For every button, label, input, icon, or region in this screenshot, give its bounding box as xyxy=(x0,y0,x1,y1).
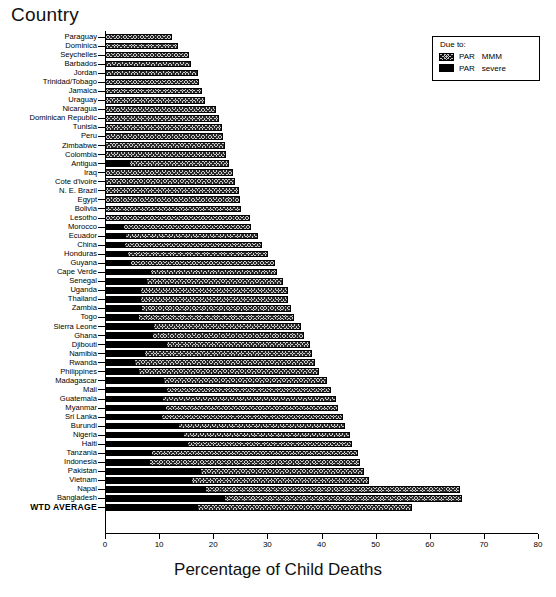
y-axis-tick xyxy=(98,453,105,454)
bar-segment-par-mmm xyxy=(124,225,250,230)
stacked-bar xyxy=(105,169,233,176)
x-axis-tick xyxy=(376,534,377,539)
legend-swatch-hatched-icon xyxy=(439,53,454,61)
stacked-bar xyxy=(105,242,262,249)
y-axis-label: N. E. Brazil xyxy=(0,186,97,195)
y-axis-label: Guatemala xyxy=(0,394,97,403)
bar-row xyxy=(105,277,538,286)
bar-row xyxy=(105,413,538,422)
x-axis-tick xyxy=(267,534,268,539)
bar-segment-par-mmm xyxy=(167,388,330,393)
y-axis-tick xyxy=(98,371,105,372)
y-axis-label: Bolivia xyxy=(0,204,97,213)
y-axis-label: Pakistan xyxy=(0,466,97,475)
stacked-bar xyxy=(105,124,222,131)
bar-row xyxy=(105,440,538,449)
y-axis-label: Thailand xyxy=(0,294,97,303)
bar-row xyxy=(105,159,538,168)
y-axis-label: Trinidad/Tobago xyxy=(0,77,97,86)
stacked-bar xyxy=(105,79,199,86)
stacked-bar xyxy=(105,477,369,484)
legend-item-par-mmm-label: PARMMM xyxy=(459,52,502,61)
bar-segment-par-mmm xyxy=(139,315,293,320)
stacked-bar xyxy=(105,187,239,194)
legend-item-par-severe-label: PARsevere xyxy=(459,64,506,73)
bar-segment-par-mmm xyxy=(163,397,335,402)
bar-segment-par-mmm xyxy=(106,179,234,184)
y-axis-tick xyxy=(98,91,105,92)
y-axis-tick xyxy=(98,317,105,318)
stacked-bar xyxy=(105,196,240,203)
bar-segment-par-severe xyxy=(106,496,225,501)
stacked-bar xyxy=(105,459,360,466)
bar-segment-par-mmm xyxy=(225,496,461,501)
stacked-bar xyxy=(105,233,258,240)
y-axis-label: Myanmar xyxy=(0,403,97,412)
y-axis-label: Namibia xyxy=(0,349,97,358)
x-axis-tick-label: 60 xyxy=(425,540,434,549)
y-axis-label: Tanzania xyxy=(0,448,97,457)
y-axis-label: Haiti xyxy=(0,439,97,448)
bar-row xyxy=(105,177,538,186)
y-axis-label: Ghana xyxy=(0,331,97,340)
bar-segment-par-mmm xyxy=(166,406,337,411)
y-axis-label: Barbados xyxy=(0,59,97,68)
bar-segment-par-severe xyxy=(106,351,145,356)
y-axis-tick xyxy=(98,281,105,282)
bar-segment-par-severe xyxy=(106,378,164,383)
bar-row xyxy=(105,313,538,322)
bar-row xyxy=(105,331,538,340)
bar-segment-par-severe xyxy=(106,333,153,338)
bar-segment-par-severe xyxy=(106,397,163,402)
y-axis-label: Peru xyxy=(0,131,97,140)
y-axis-tick xyxy=(98,236,105,237)
y-axis-label: Ecuador xyxy=(0,231,97,240)
y-axis-tick xyxy=(98,64,105,65)
stacked-bar xyxy=(105,441,352,448)
legend-par-mmm-a: PAR xyxy=(459,52,475,61)
bar-segment-par-severe xyxy=(106,324,154,329)
stacked-bar xyxy=(105,97,205,104)
y-axis-label: Seychelles xyxy=(0,50,97,59)
y-axis-label: Cape Verde xyxy=(0,267,97,276)
y-axis-tick xyxy=(98,344,105,345)
bar-row xyxy=(105,304,538,313)
bar-row xyxy=(105,340,538,349)
bar-segment-par-mmm xyxy=(131,261,274,266)
bar-row xyxy=(105,485,538,494)
y-axis-tick xyxy=(98,362,105,363)
bar-segment-par-mmm xyxy=(141,288,287,293)
bar-segment-par-mmm xyxy=(135,360,314,365)
bar-row xyxy=(105,467,538,476)
x-axis-tick xyxy=(484,534,485,539)
x-axis-tick-label: 80 xyxy=(534,540,543,549)
legend-item-par-mmm: PARMMM xyxy=(439,52,534,61)
x-axis-tick-label: 70 xyxy=(479,540,488,549)
stacked-bar xyxy=(105,296,288,303)
y-axis-label: Paraguay xyxy=(0,32,97,41)
x-axis-tick xyxy=(105,534,106,539)
y-axis-tick xyxy=(98,426,105,427)
x-axis-tick xyxy=(213,534,214,539)
stacked-bar xyxy=(105,432,350,439)
y-axis-tick xyxy=(98,46,105,47)
bar-segment-par-mmm xyxy=(142,306,290,311)
bar-segment-par-mmm xyxy=(106,216,249,221)
bar-segment-par-severe xyxy=(106,478,192,483)
bar-segment-par-mmm xyxy=(192,478,368,483)
legend-par-severe-b: severe xyxy=(482,64,506,73)
bar-segment-par-severe xyxy=(106,270,151,275)
bar-row xyxy=(105,349,538,358)
bar-row xyxy=(105,186,538,195)
x-axis: 01020304050607080 xyxy=(105,534,538,560)
stacked-bar xyxy=(105,486,460,493)
bar-segment-par-mmm xyxy=(106,80,198,85)
bar-row xyxy=(105,458,538,467)
stacked-bar xyxy=(105,106,216,113)
bar-row xyxy=(105,322,538,331)
legend-par-mmm-b: MMM xyxy=(482,52,502,61)
y-axis-tick xyxy=(98,218,105,219)
bar-segment-par-severe xyxy=(106,225,124,230)
bar-row xyxy=(105,395,538,404)
stacked-bar xyxy=(105,314,294,321)
